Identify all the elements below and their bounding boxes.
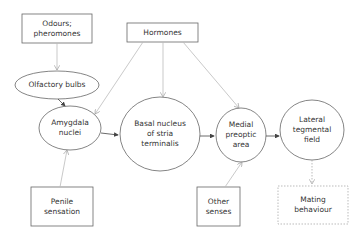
amygdala-label: Amygdala nuclei (39, 106, 101, 150)
arrow-amygdala-basal (101, 133, 118, 135)
penile-label: Penile sensation (31, 187, 93, 226)
odours-label: Odours; pheromones (22, 14, 92, 43)
other-senses-label: Other senses (197, 187, 240, 226)
arrow-penile-amygdala (60, 150, 67, 187)
olfactory-label: Olfactory bulbs (15, 71, 99, 99)
hormones-label: Hormones (127, 23, 198, 42)
lateral-label: Lateral tegmental field (280, 100, 344, 160)
arrow-olfactory-amygdala (58, 99, 65, 106)
medial-label: Medial preoptic area (216, 108, 266, 162)
mating-label: Mating behaviour (278, 186, 348, 224)
arrow-other-medial (225, 162, 242, 187)
basal-label: Basal nucleus of stria terminalis (120, 97, 200, 171)
